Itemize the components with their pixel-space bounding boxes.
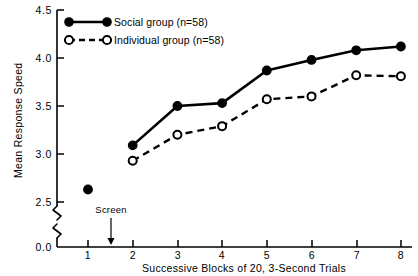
data-point-individual: [308, 92, 316, 100]
data-point-social: [129, 141, 137, 149]
data-point-individual: [397, 72, 405, 80]
data-point-social: [263, 66, 271, 74]
data-point-individual: [263, 95, 271, 103]
y-tick-label-4-5: 4.5: [36, 4, 52, 16]
series-individual-group: [129, 71, 405, 164]
y-axis-title: Mean Response Speed: [12, 63, 24, 178]
x-tick-label-7: 7: [354, 249, 360, 261]
data-point-social: [173, 102, 181, 110]
legend-social-marker-left: [65, 18, 73, 26]
y-tick-label-3-0: 3.0: [36, 148, 52, 160]
data-point-social: [218, 99, 226, 107]
x-axis-title: Successive Blocks of 20, 3-Second Trials: [142, 262, 346, 274]
data-point-individual: [352, 71, 360, 79]
chart-figure: 4.5 4.0 3.5 3.0 2.5 0.0 Mean Response Sp…: [0, 0, 418, 276]
series-social-markers: [84, 42, 405, 193]
x-tick-label-6: 6: [309, 249, 315, 261]
data-point-individual: [218, 122, 226, 130]
legend-individual-marker-left: [65, 36, 73, 44]
legend: Social group (n=58) Individual group (n=…: [65, 16, 224, 46]
x-tick-label-3: 3: [175, 249, 181, 261]
x-axis: 1 2 3 4 5 6 7 8 Successive Blocks of 20,…: [57, 240, 412, 274]
data-point-social: [307, 56, 315, 64]
series-social-group: [84, 42, 405, 193]
x-tick-label-8: 8: [398, 249, 404, 261]
screen-annotation-label: Screen: [95, 204, 126, 215]
y-tick-label-4-0: 4.0: [36, 52, 52, 64]
y-axis-break-squiggle-lower: [53, 224, 61, 238]
legend-social-marker-right: [103, 18, 111, 26]
line-chart: 4.5 4.0 3.5 3.0 2.5 0.0 Mean Response Sp…: [0, 0, 418, 276]
x-tick-label-5: 5: [264, 249, 270, 261]
x-tick-label-1: 1: [85, 249, 91, 261]
y-tick-label-3-5: 3.5: [36, 100, 52, 112]
legend-label-social: Social group (n=58): [114, 16, 208, 28]
x-tick-label-4: 4: [219, 249, 225, 261]
screen-annotation: Screen: [95, 204, 126, 245]
y-axis-break-squiggle: [53, 206, 61, 220]
series-individual-line: [133, 75, 401, 160]
data-point-individual: [173, 131, 181, 139]
data-point-social: [397, 42, 405, 50]
legend-label-individual: Individual group (n=58): [114, 34, 224, 46]
y-axis: 4.5 4.0 3.5 3.0 2.5 0.0 Mean Response Sp…: [12, 4, 64, 253]
x-tick-label-2: 2: [130, 249, 136, 261]
legend-individual-marker-right: [103, 36, 111, 44]
series-individual-markers: [129, 71, 405, 164]
y-tick-label-2-5: 2.5: [36, 196, 52, 208]
screen-arrow-head: [108, 238, 115, 245]
data-point-individual: [129, 157, 137, 165]
data-point-social: [84, 185, 92, 193]
data-point-social: [352, 46, 360, 54]
y-tick-label-0-0: 0.0: [36, 241, 52, 253]
